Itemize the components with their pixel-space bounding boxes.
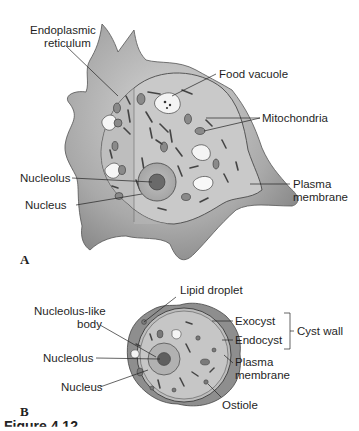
label-nucleus-b: Nucleus bbox=[61, 381, 103, 394]
label-line-1: Plasma bbox=[293, 178, 348, 191]
panel-label-b: B bbox=[20, 404, 29, 420]
label-endoplasmic-reticulum: Endoplasmic reticulum bbox=[30, 24, 96, 50]
label-line-2: membrane bbox=[293, 191, 348, 204]
amoeba-cell bbox=[65, 24, 298, 260]
cyst-cell bbox=[127, 303, 240, 406]
label-nucleus-a: Nucleus bbox=[25, 199, 67, 212]
label-mitochondria: Mitochondria bbox=[262, 112, 328, 125]
label-food-vacuole: Food vacuole bbox=[219, 68, 288, 81]
diagram-canvas bbox=[0, 0, 359, 431]
label-line-1: Nucleolus-like bbox=[34, 305, 102, 318]
label-line-1: Plasma bbox=[235, 356, 290, 369]
label-plasma-membrane-b: Plasma membrane bbox=[235, 356, 290, 382]
label-nucleolus-a: Nucleolus bbox=[20, 172, 71, 185]
label-cyst-wall: Cyst wall bbox=[297, 325, 343, 338]
label-line-2: membrane bbox=[235, 369, 290, 382]
label-lipid-droplet: Lipid droplet bbox=[180, 284, 243, 297]
label-line-2: body bbox=[34, 318, 102, 331]
panel-label-a: A bbox=[20, 252, 29, 268]
label-endocyst: Endocyst bbox=[235, 334, 282, 347]
label-exocyst: Exocyst bbox=[235, 315, 275, 328]
label-line-2: reticulum bbox=[30, 37, 96, 50]
label-ostiole: Ostiole bbox=[222, 399, 258, 412]
label-nucleolus-b: Nucleolus bbox=[43, 352, 94, 365]
label-plasma-membrane-a: Plasma membrane bbox=[293, 178, 348, 204]
label-line-1: Endoplasmic bbox=[30, 24, 96, 37]
label-nucleolus-like-body: Nucleolus-like body bbox=[34, 305, 102, 331]
